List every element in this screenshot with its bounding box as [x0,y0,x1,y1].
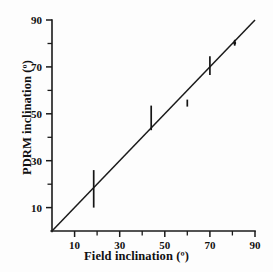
one-to-one-reference-line [52,20,255,231]
y-axis-title: PDRM inclination (º) [20,38,35,198]
data-marker [233,42,236,45]
x-axis-title: Field inclination (º) [0,249,273,264]
x-major-ticks [75,231,255,237]
y-tick-label-10: 10 [22,202,42,213]
y-tick-label-90: 90 [22,15,42,26]
y-major-ticks [46,20,52,208]
data-series-pdrm-inclination [94,40,237,208]
chart-figure: 90 70 50 30 10 10 30 50 70 90 Field incl… [0,0,273,272]
plot-canvas [0,0,273,272]
